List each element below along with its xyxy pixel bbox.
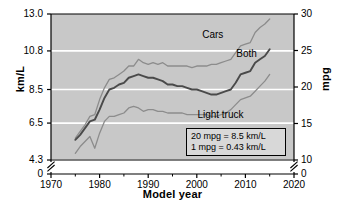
x-tick-2000: 2000 <box>175 179 219 190</box>
series-label-cars: Cars <box>202 29 223 40</box>
fuel-economy-chart: km/L mpg Model year 13.010.88.56.54.3030… <box>0 0 339 210</box>
x-tick-2020: 2020 <box>272 179 316 190</box>
x-tick-1980: 1980 <box>78 179 122 190</box>
series-label-both: Both <box>236 48 257 59</box>
y-tick-right-15: 15 <box>301 118 339 129</box>
y-tick-left-13-0: 13.0 <box>3 8 43 19</box>
y-tick-right-0: 0 <box>301 168 339 179</box>
y-tick-right-20: 20 <box>301 81 339 92</box>
conversion-note-box: 20 mpg = 8.5 km/L 1 mpg = 0.43 km/L <box>186 128 286 156</box>
note-line-2: 1 mpg = 0.43 km/L <box>191 142 281 153</box>
y-tick-right-10: 10 <box>301 154 339 165</box>
axis-break-marks <box>47 162 297 172</box>
y-tick-left-0: 0 <box>3 168 43 179</box>
y-tick-left-6-5: 6.5 <box>3 117 43 128</box>
y-tick-right-30: 30 <box>301 8 339 19</box>
note-line-1: 20 mpg = 8.5 km/L <box>191 131 281 142</box>
x-tick-1970: 1970 <box>29 179 73 190</box>
series-label-light-truck: Light truck <box>197 109 243 120</box>
y-tick-left-4-3: 4.3 <box>3 154 43 165</box>
y-axis-title-left: km/L <box>14 49 26 109</box>
y-axis-title-right: mpg <box>319 49 331 109</box>
y-tick-right-25: 25 <box>301 45 339 56</box>
y-tick-left-8-5: 8.5 <box>3 84 43 95</box>
x-tick-1990: 1990 <box>126 179 170 190</box>
y-tick-left-10-8: 10.8 <box>3 45 43 56</box>
x-tick-2010: 2010 <box>223 179 267 190</box>
